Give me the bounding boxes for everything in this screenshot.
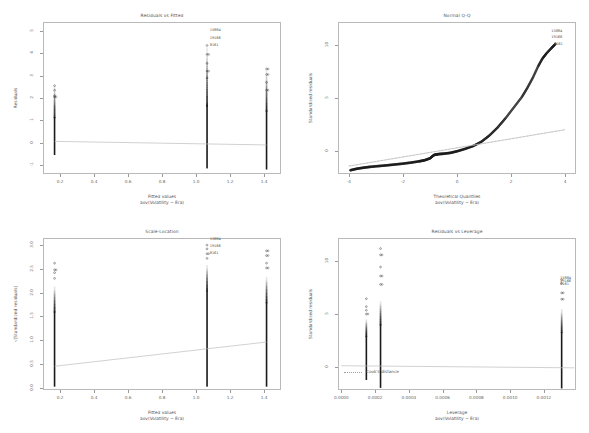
point-label: 8161 <box>210 251 219 255</box>
point-label: 8161 <box>210 43 219 47</box>
chart-residuals-vs-fitted: Residuals vs FittedFitted valuesaov(Vola… <box>0 0 295 217</box>
r-diagnostic-plot-panel: Residuals vs FittedFitted valuesaov(Vola… <box>0 0 589 433</box>
cooks-distance-line <box>344 372 362 373</box>
point-label: 19166 <box>210 36 221 40</box>
plot-canvas <box>0 216 295 433</box>
point-label: 15884 <box>210 237 221 241</box>
point-label: 15884 <box>551 29 562 33</box>
point-label: 19166 <box>210 244 221 248</box>
point-label: 19166 <box>551 35 562 39</box>
point-label: 8161 <box>560 282 569 286</box>
plot-canvas <box>295 216 589 433</box>
plot-canvas <box>0 0 295 217</box>
reference-line <box>341 366 574 368</box>
loess-smoother-line <box>55 141 267 145</box>
point-label: 15884 <box>210 28 221 32</box>
chart-normal-qq: Normal Q-QTheoretical Quantilesaov(Volat… <box>295 0 589 217</box>
cooks-distance-legend-label: Cook's distance <box>366 369 399 374</box>
point-label: 8161 <box>554 42 563 46</box>
loess-smoother-line <box>55 342 267 366</box>
chart-residuals-vs-leverage: Residuals vs LeverageLeverageaov(Volatil… <box>295 216 589 433</box>
plot-canvas <box>295 0 589 217</box>
chart-scale-location: Scale-LocationFitted valuesaov(Volatilit… <box>0 216 295 433</box>
